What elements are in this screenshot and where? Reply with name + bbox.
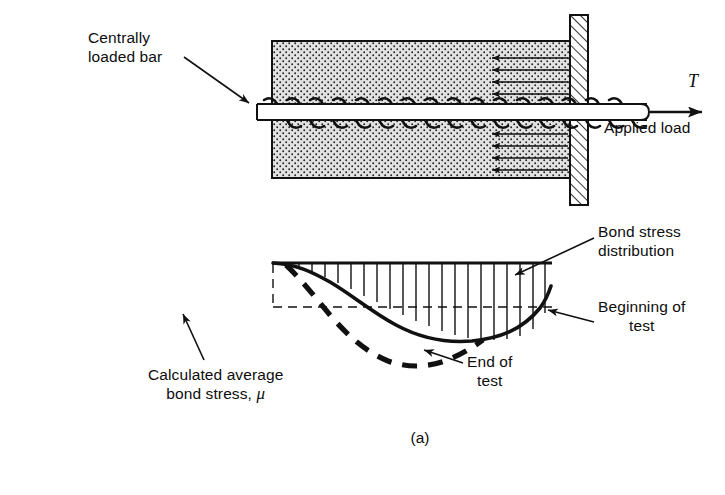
label-end-of-test-line1: End of (467, 353, 512, 370)
leader-beginning-of-test (548, 310, 594, 322)
curve-end-of-test (286, 265, 483, 366)
label-calculated-average-line1: Calculated average (148, 366, 283, 383)
label-beginning-of-test-line2: test (598, 316, 685, 335)
label-beginning-of-test: Beginning oftest (598, 297, 685, 335)
label-centrally-loaded-bar: Centrallyloaded bar (88, 28, 162, 66)
label-calculated-average-bond-stress: Calculated averagebond stress, μ (148, 365, 283, 403)
label-centrally-loaded-bar-line2: loaded bar (88, 48, 162, 65)
label-bond-stress-distribution-line2: distribution (598, 242, 674, 259)
label-calculated-average-line2: bond stress, (166, 385, 256, 402)
label-tension-symbol: T (688, 72, 698, 91)
curve-beginning-of-test (273, 263, 551, 341)
label-end-of-test: End oftest (467, 352, 512, 390)
label-beginning-of-test-line1: Beginning of (598, 298, 685, 315)
label-applied-load: Applied load (604, 118, 691, 137)
stress-hatch-lines (286, 263, 545, 340)
label-end-of-test-line2: test (467, 371, 512, 390)
label-centrally-loaded-bar-line1: Centrally (88, 29, 150, 46)
leader-bond-stress-distribution (515, 238, 594, 275)
label-bond-stress-distribution-line1: Bond stress (598, 223, 681, 240)
figure-root: Centrallyloaded bar T Applied load Bond … (0, 0, 725, 495)
bond-stress-diagram-group (183, 238, 594, 366)
mu-symbol: μ (256, 384, 265, 403)
average-stress-box (273, 264, 552, 307)
top-diagram-group (184, 15, 702, 205)
leader-calculated-average (183, 314, 204, 360)
label-bond-stress-distribution: Bond stressdistribution (598, 222, 681, 260)
figure-caption: (a) (400, 428, 440, 447)
leader-centrally-loaded-bar (184, 57, 249, 103)
